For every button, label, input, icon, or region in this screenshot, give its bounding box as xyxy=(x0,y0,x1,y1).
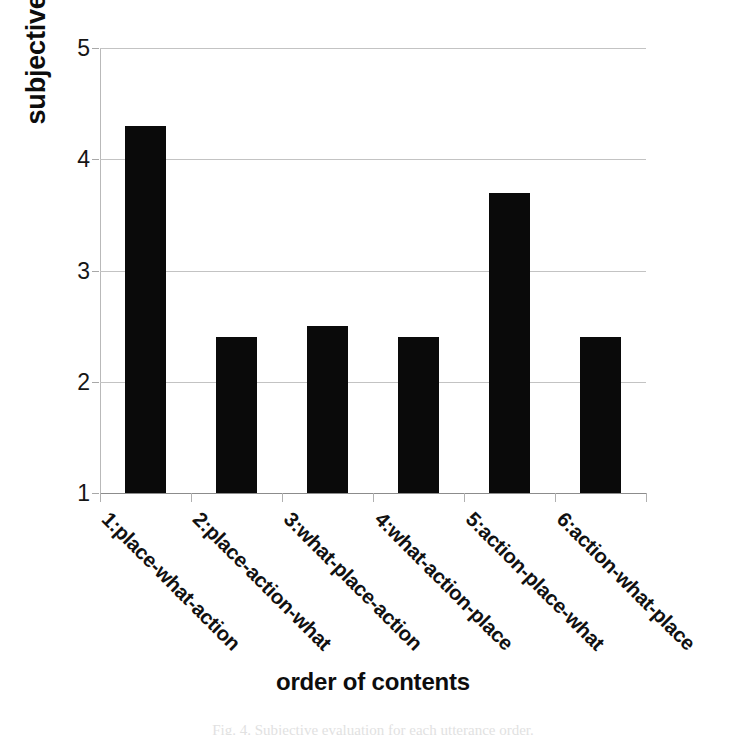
figure-caption: Fig. 4. Subjective evaluation for each u… xyxy=(0,722,746,735)
y-tick-mark-5 xyxy=(92,48,99,49)
bar[interactable] xyxy=(307,326,348,493)
y-axis-tick-group: 12345 xyxy=(54,48,90,493)
x-tick-mark xyxy=(191,493,192,502)
y-axis-title: subjective evaluation xyxy=(16,0,56,160)
y-tick-mark-2 xyxy=(92,382,99,383)
y-tick-mark-3 xyxy=(92,271,99,272)
bar[interactable] xyxy=(216,337,257,493)
gridline-5 xyxy=(100,48,646,49)
x-tick-mark xyxy=(100,493,101,502)
y-tick-mark-1 xyxy=(92,493,99,494)
y-tick-label-1: 1 xyxy=(60,480,90,507)
gridline-4 xyxy=(100,159,646,160)
x-tick-mark xyxy=(373,493,374,502)
y-tick-label-5: 5 xyxy=(60,35,90,62)
x-tick-mark xyxy=(646,493,647,502)
plot-area xyxy=(100,48,646,493)
bar[interactable] xyxy=(580,337,621,493)
bar[interactable] xyxy=(398,337,439,493)
x-tick-mark xyxy=(464,493,465,502)
bar[interactable] xyxy=(489,193,530,493)
y-tick-label-2: 2 xyxy=(60,369,90,396)
y-tick-label-3: 3 xyxy=(60,258,90,285)
x-axis-title: order of contents xyxy=(0,668,746,696)
y-tick-label-4: 4 xyxy=(60,146,90,173)
bar[interactable] xyxy=(125,126,166,493)
bar-chart-figure: subjective evaluation 12345 1:place-what… xyxy=(0,0,746,735)
x-tick-mark xyxy=(282,493,283,502)
gridline-2 xyxy=(100,382,646,383)
y-tick-mark-4 xyxy=(92,159,99,160)
x-tick-mark xyxy=(555,493,556,502)
gridline-3 xyxy=(100,271,646,272)
